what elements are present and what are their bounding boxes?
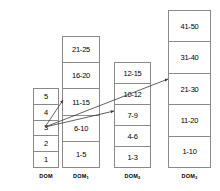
dom-cell-target: 21-30 bbox=[169, 74, 210, 105]
column-label-dom-2: DOM2 bbox=[114, 173, 151, 179]
dom-cell: 11-20 bbox=[169, 105, 210, 136]
diagram-canvas: 5 4 3 2 1 DOM 21-25 16-20 11-15 6-10 1-5… bbox=[0, 0, 220, 191]
column-label-dom-base: DOM bbox=[33, 173, 59, 179]
column-label-text: DOM bbox=[39, 173, 52, 179]
dom-cell: 5 bbox=[34, 89, 58, 105]
dom-cell: 41-50 bbox=[169, 11, 210, 42]
dom-column-dom-1: 21-25 16-20 11-15 6-10 1-5 bbox=[62, 36, 100, 168]
dom-cell: 6-10 bbox=[63, 116, 99, 142]
dom-cell-target: 7-9 bbox=[115, 105, 150, 126]
dom-cell-target: 11-15 bbox=[63, 89, 99, 115]
dom-cell: 1-3 bbox=[115, 147, 150, 167]
column-label-subscript: 3 bbox=[195, 175, 197, 180]
dom-cell: 10-12 bbox=[115, 84, 150, 105]
dom-cell: 12-15 bbox=[115, 63, 150, 84]
dom-cell: 31-40 bbox=[169, 42, 210, 73]
column-label-dom-1: DOM1 bbox=[62, 173, 100, 179]
dom-cell: 16-20 bbox=[63, 63, 99, 89]
column-label-text: DOM bbox=[73, 173, 86, 179]
dom-cell: 4 bbox=[34, 105, 58, 121]
column-label-subscript: 2 bbox=[138, 175, 140, 180]
column-label-text: DOM bbox=[182, 173, 195, 179]
dom-cell: 1-10 bbox=[169, 137, 210, 167]
dom-cell-source: 3 bbox=[34, 121, 58, 137]
column-label-text: DOM bbox=[125, 173, 138, 179]
dom-cell: 1-5 bbox=[63, 142, 99, 167]
dom-cell: 2 bbox=[34, 136, 58, 152]
dom-cell: 21-25 bbox=[63, 37, 99, 63]
column-label-subscript: 1 bbox=[87, 175, 89, 180]
dom-column-dom-2: 12-15 10-12 7-9 4-6 1-3 bbox=[114, 62, 151, 168]
dom-column-dom-3: 41-50 31-40 21-30 11-20 1-10 bbox=[168, 10, 211, 168]
dom-cell: 1 bbox=[34, 152, 58, 167]
dom-cell: 4-6 bbox=[115, 126, 150, 147]
dom-column-dom-base: 5 4 3 2 1 bbox=[33, 88, 59, 168]
column-label-dom-3: DOM3 bbox=[168, 173, 211, 179]
